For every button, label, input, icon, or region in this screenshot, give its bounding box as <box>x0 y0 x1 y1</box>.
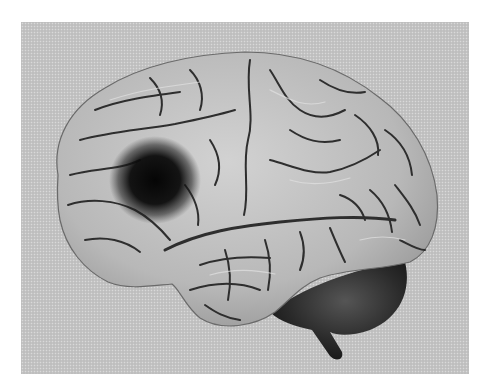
frontal-lobe-lesion <box>109 136 201 224</box>
brain-illustration <box>0 0 487 388</box>
